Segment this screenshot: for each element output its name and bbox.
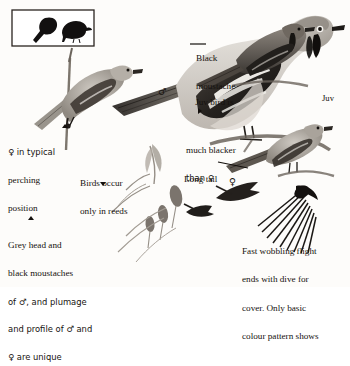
- triangle-up-marker-perching: [62, 124, 68, 128]
- callout-line: Fast wobbling flight: [242, 247, 319, 256]
- callout-juv-label: Juv: [322, 76, 334, 111]
- callout-line: Grey head and: [8, 241, 92, 250]
- callout-line: position: [8, 204, 55, 213]
- callout-line: cover. Only basic: [242, 304, 319, 313]
- callout-line: ♀ in typical: [8, 148, 55, 157]
- callout-line: perching: [8, 176, 55, 185]
- callout-line: much blacker: [186, 146, 236, 155]
- figure-female-long-tail: [226, 124, 334, 176]
- callout-line: Black: [196, 54, 235, 63]
- callout-line: of ♂, and plumage: [8, 298, 92, 307]
- callout-line: and profile of ♂ and: [8, 325, 92, 334]
- callout-line: ends with dive for: [242, 275, 319, 284]
- triangle-up-marker-greyhead: [28, 216, 34, 220]
- figure-flight-small-left: [184, 204, 214, 217]
- callout-line: Juv bird is: [195, 97, 233, 107]
- callout-line: colour pattern shows: [242, 332, 319, 341]
- female-symbol-long-tail: ♀: [229, 177, 236, 187]
- callout-line: Juv: [322, 94, 334, 103]
- callout-line: black moustaches: [8, 269, 92, 278]
- callout-female-perching: ♀ in typical perching position: [8, 129, 55, 223]
- callout-line-with-marker: Juv bird is: [186, 89, 236, 127]
- triangle-right-marker: [198, 108, 202, 114]
- silhouette-inset-box: [12, 10, 94, 46]
- callout-line: Long tail: [184, 175, 217, 184]
- callout-grey-head-unique: Grey head and black moustaches of ♂, and…: [8, 222, 92, 366]
- callout-line: only in reeds: [80, 207, 127, 216]
- callout-flight-pattern: Fast wobbling flight ends with dive for …: [242, 228, 319, 351]
- callout-birds-occur-reeds: Birds occur only in reeds: [80, 160, 127, 226]
- triangle-down-marker-reeds: [100, 182, 106, 186]
- male-symbol-main-bird: ♂: [158, 87, 167, 97]
- callout-long-tail: Long tail: [184, 156, 217, 194]
- callout-line: ♀ are unique: [8, 353, 92, 362]
